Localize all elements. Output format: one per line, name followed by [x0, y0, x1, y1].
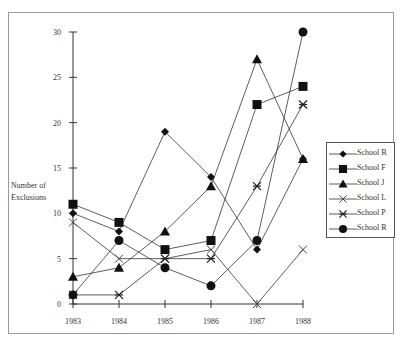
square-marker-icon	[339, 165, 347, 173]
square-marker-icon	[299, 82, 308, 91]
y-tick-label: 20	[53, 119, 61, 128]
square-marker-icon	[69, 200, 78, 209]
diamond-marker-icon	[69, 209, 77, 217]
y-tick-label: 30	[53, 28, 61, 37]
legend-item-school-j: School J	[327, 177, 396, 191]
legend-swatch	[329, 192, 357, 206]
y-tick-label: 10	[53, 209, 61, 218]
legend-swatch	[329, 222, 357, 236]
circle-marker-icon	[207, 281, 216, 290]
x-tick-label: 1985	[157, 317, 173, 326]
diamond-marker-icon	[339, 150, 346, 157]
legend-item-school-r: School R	[327, 222, 396, 236]
asterisk-marker-icon	[115, 291, 123, 299]
circle-marker-icon	[161, 263, 170, 272]
x-marker-icon	[299, 246, 307, 254]
series-school-f	[69, 82, 308, 254]
square-marker-icon	[253, 100, 262, 109]
asterisk-marker-icon	[299, 101, 307, 109]
legend-label: School R	[357, 223, 387, 232]
square-marker-icon	[207, 236, 216, 245]
y-tick-label: 5	[57, 255, 61, 264]
x-tick-label: 1987	[249, 317, 265, 326]
legend-label: School B	[357, 148, 387, 157]
legend-item-school-f: School F	[327, 162, 396, 176]
x-tick-label: 1983	[65, 317, 81, 326]
circle-marker-icon	[69, 290, 78, 299]
legend-swatch	[329, 147, 357, 161]
legend-swatch	[329, 162, 357, 176]
x-marker-icon	[207, 246, 215, 254]
circle-marker-icon	[253, 236, 262, 245]
square-marker-icon	[161, 245, 170, 254]
diamond-marker-icon	[115, 227, 123, 235]
square-marker-icon	[115, 218, 124, 227]
asterisk-marker-icon	[207, 255, 215, 263]
chart-legend: School BSchool FSchool JSchool LSchool P…	[326, 142, 395, 238]
series-school-p	[69, 101, 307, 299]
legend-swatch	[329, 177, 357, 191]
triangle-marker-icon	[252, 54, 262, 63]
y-tick-label: 0	[57, 300, 61, 309]
diamond-marker-icon	[253, 246, 261, 254]
x-tick-label: 1988	[295, 317, 311, 326]
legend-item-school-p: School P	[327, 207, 396, 221]
asterisk-marker-icon	[339, 210, 346, 217]
circle-marker-icon	[339, 225, 347, 233]
legend-label: School F	[357, 163, 386, 172]
y-tick-label: 15	[53, 164, 61, 173]
legend-label: School P	[357, 208, 386, 217]
x-tick-label: 1986	[203, 317, 219, 326]
circle-marker-icon	[115, 236, 124, 245]
series-school-b	[69, 128, 307, 254]
legend-label: School L	[357, 193, 386, 202]
y-tick-label: 25	[53, 73, 61, 82]
circle-marker-icon	[299, 28, 308, 37]
triangle-marker-icon	[114, 263, 124, 272]
legend-item-school-l: School L	[327, 192, 396, 206]
triangle-marker-icon	[339, 180, 348, 188]
x-tick-label: 1984	[111, 317, 127, 326]
asterisk-marker-icon	[253, 182, 261, 190]
legend-label: School J	[357, 178, 384, 187]
asterisk-marker-icon	[161, 255, 169, 263]
legend-swatch	[329, 207, 357, 221]
legend-item-school-b: School B	[327, 147, 396, 161]
